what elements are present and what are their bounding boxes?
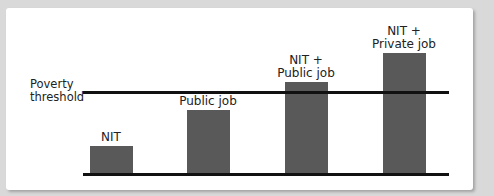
bar-nit-private-job (383, 53, 426, 174)
bar-nit (90, 146, 133, 174)
bar3-label-line2: Public job (276, 67, 336, 80)
bar-label-nit-public-job: NIT + Public job (276, 54, 336, 80)
poverty-threshold-label: Poverty threshold (30, 78, 84, 104)
bar-label-public-job: Public job (178, 95, 238, 108)
baseline (83, 173, 449, 176)
bar-label-nit-private-job: NIT + Private job (369, 25, 439, 51)
bar4-label-line2: Private job (369, 38, 439, 51)
bar-label-nit: NIT (81, 131, 141, 144)
threshold-label-line2: threshold (30, 91, 84, 104)
poverty-threshold-line (83, 91, 449, 94)
bar-nit-public-job (285, 82, 328, 174)
bar-public-job (187, 110, 230, 174)
